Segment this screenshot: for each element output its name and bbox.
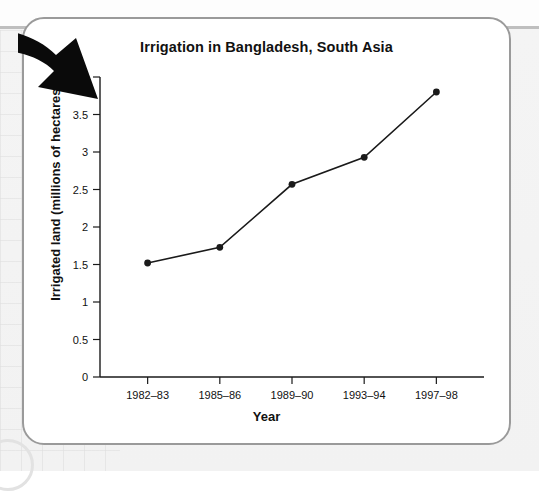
svg-text:2.5: 2.5 (73, 184, 88, 196)
svg-text:1985–86: 1985–86 (198, 389, 241, 401)
svg-text:1989–90: 1989–90 (271, 389, 314, 401)
svg-text:1993–94: 1993–94 (343, 389, 386, 401)
svg-text:0: 0 (82, 371, 88, 383)
line-chart: Irrigation in Bangladesh, South Asia Irr… (22, 17, 511, 445)
svg-text:2: 2 (82, 221, 88, 233)
svg-text:1.5: 1.5 (73, 259, 88, 271)
svg-text:1: 1 (82, 296, 88, 308)
x-axis-ticks: 1982–831985–861989–901993–941997–98 (126, 377, 458, 401)
data-series-line (148, 92, 437, 263)
svg-text:0.5: 0.5 (73, 334, 88, 346)
svg-text:1982–83: 1982–83 (126, 389, 169, 401)
svg-text:1997–98: 1997–98 (415, 389, 458, 401)
plot-area: 00.511.522.533.54 1982–831985–861989–901… (22, 17, 511, 445)
data-point-markers (144, 89, 440, 267)
svg-text:4: 4 (82, 71, 88, 83)
svg-text:3.5: 3.5 (73, 109, 88, 121)
svg-text:3: 3 (82, 146, 88, 158)
y-axis-ticks: 00.511.522.533.54 (73, 71, 100, 383)
